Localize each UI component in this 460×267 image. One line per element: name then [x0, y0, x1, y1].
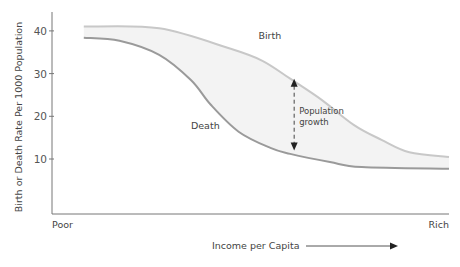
y-axis-label: Birth or Death Rate Per 1000 Population: [13, 22, 24, 212]
population-growth-label-line-2: growth: [299, 117, 329, 127]
y-tick-label: 10: [34, 153, 47, 165]
y-tick-label: 30: [34, 68, 47, 80]
x-axis-label: Income per Capita: [212, 240, 299, 251]
chart: 10203040 Birth or Death Rate Per 1000 Po…: [0, 0, 460, 267]
y-tick-label: 40: [34, 25, 47, 37]
y-tick-label: 20: [34, 110, 47, 122]
x-tick-label-rich: Rich: [429, 219, 449, 230]
population-growth-label-line-1: Population: [299, 106, 344, 116]
death-label: Death: [191, 120, 220, 131]
birth-label: Birth: [258, 30, 281, 41]
x-axis-direction-arrowhead: [390, 243, 398, 250]
x-tick-label-poor: Poor: [52, 219, 73, 230]
